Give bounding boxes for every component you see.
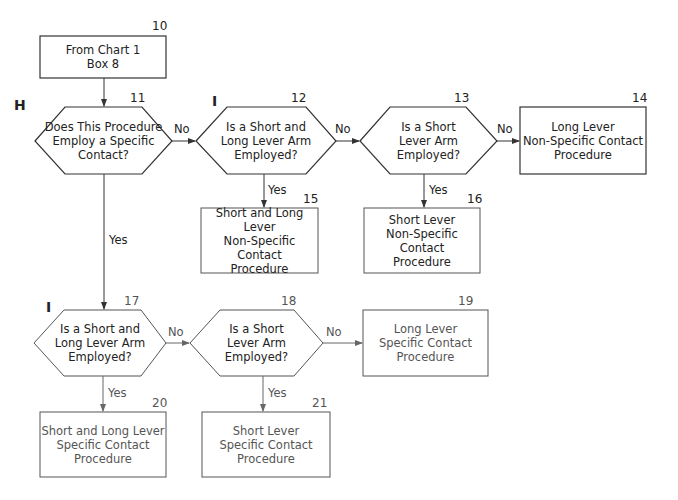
edge-label-17-18: No [168, 325, 184, 339]
box-21-text: Short Lever Specific Contact Procedure [202, 412, 330, 477]
node-number-19: 19 [458, 294, 473, 308]
node-number-21: 21 [312, 396, 327, 410]
node-number-10: 10 [152, 19, 167, 33]
box-19-text: Long Lever Specific Contact Procedure [363, 310, 488, 376]
edge-label-12-13: No [335, 122, 351, 136]
flowchart: From Chart 1 Box 8 Does This Procedure E… [0, 0, 678, 500]
hexagon-13-text: Is a Short Lever Arm Employed? [360, 107, 497, 174]
edge-label-18-21: Yes [268, 386, 287, 400]
hexagon-17-text: Is a Short and Long Lever Arm Employed? [34, 310, 166, 376]
edge-label-13-14: No [497, 122, 513, 136]
edge-label-17-20: Yes [108, 386, 127, 400]
node-number-14: 14 [632, 91, 647, 105]
node-number-11: 11 [130, 91, 145, 105]
node-number-12: 12 [291, 91, 306, 105]
edge-label-11-12: No [174, 122, 190, 136]
section-label-h: H [14, 97, 26, 113]
node-number-13: 13 [454, 91, 469, 105]
edge-label-11-17: Yes [109, 233, 128, 247]
box-10-text: From Chart 1 Box 8 [40, 36, 166, 78]
node-number-16: 16 [467, 192, 482, 206]
node-number-17: 17 [124, 294, 139, 308]
node-number-15: 15 [303, 192, 318, 206]
hexagon-11-text: Does This Procedure Employ a Specific Co… [35, 107, 172, 174]
hexagon-18-text: Is a Short Lever Arm Employed? [190, 310, 323, 376]
hexagon-12-text: Is a Short and Long Lever Arm Employed? [196, 107, 336, 174]
box-16-text: Short Lever Non-Specific Contact Procedu… [364, 208, 480, 273]
box-20-text: Short and Long Lever Specific Contact Pr… [40, 412, 166, 477]
edge-label-12-15: Yes [268, 183, 287, 197]
node-number-20: 20 [152, 396, 167, 410]
section-label-i-top: I [212, 93, 217, 109]
box-14-text: Long Lever Non-Specific Contact Procedur… [520, 107, 646, 174]
edge-label-18-19: No [326, 325, 342, 339]
node-number-18: 18 [281, 294, 296, 308]
edge-label-13-16: Yes [429, 183, 448, 197]
section-label-i-bottom: I [46, 299, 51, 315]
box-15-text: Short and Long Lever Non-Specific Contac… [201, 208, 318, 273]
